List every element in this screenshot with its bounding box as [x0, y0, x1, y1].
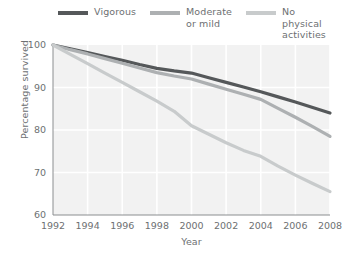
legend-swatch-moderate-or-mild	[150, 11, 180, 15]
y-axis-title: Percentage survived	[19, 20, 30, 160]
svg-text:2002: 2002	[214, 220, 238, 231]
svg-text:80: 80	[34, 124, 46, 135]
svg-text:1994: 1994	[76, 220, 100, 231]
svg-text:2006: 2006	[283, 220, 307, 231]
svg-text:1992: 1992	[41, 220, 65, 231]
y-axis-tick-labels: 60708090100	[28, 39, 46, 220]
legend-label-no-physical-activities: No physical activities	[282, 6, 335, 41]
legend-swatch-vigorous	[58, 11, 88, 15]
legend-item-moderate-or-mild: Moderate or mild	[150, 6, 232, 29]
legend-label-moderate-or-mild: Moderate or mild	[186, 6, 232, 29]
chart-legend: Vigorous Moderate or mild No physical ac…	[0, 6, 349, 41]
legend-item-no-physical-activities: No physical activities	[246, 6, 335, 41]
svg-text:2004: 2004	[249, 220, 273, 231]
x-axis-tick-labels: 199219941996199820002002200420062008	[41, 220, 342, 231]
svg-text:1998: 1998	[145, 220, 169, 231]
svg-text:1996: 1996	[110, 220, 134, 231]
svg-text:60: 60	[34, 209, 46, 220]
legend-label-vigorous: Vigorous	[94, 6, 136, 18]
legend-item-vigorous: Vigorous	[58, 6, 136, 18]
svg-text:70: 70	[34, 167, 46, 178]
svg-text:2008: 2008	[318, 220, 342, 231]
svg-text:2000: 2000	[179, 220, 203, 231]
svg-text:90: 90	[34, 82, 46, 93]
legend-swatch-no-physical-activities	[246, 11, 276, 15]
x-axis-title: Year	[53, 236, 330, 247]
svg-text:100: 100	[28, 39, 46, 50]
chart-container: Vigorous Moderate or mild No physical ac…	[0, 0, 349, 260]
